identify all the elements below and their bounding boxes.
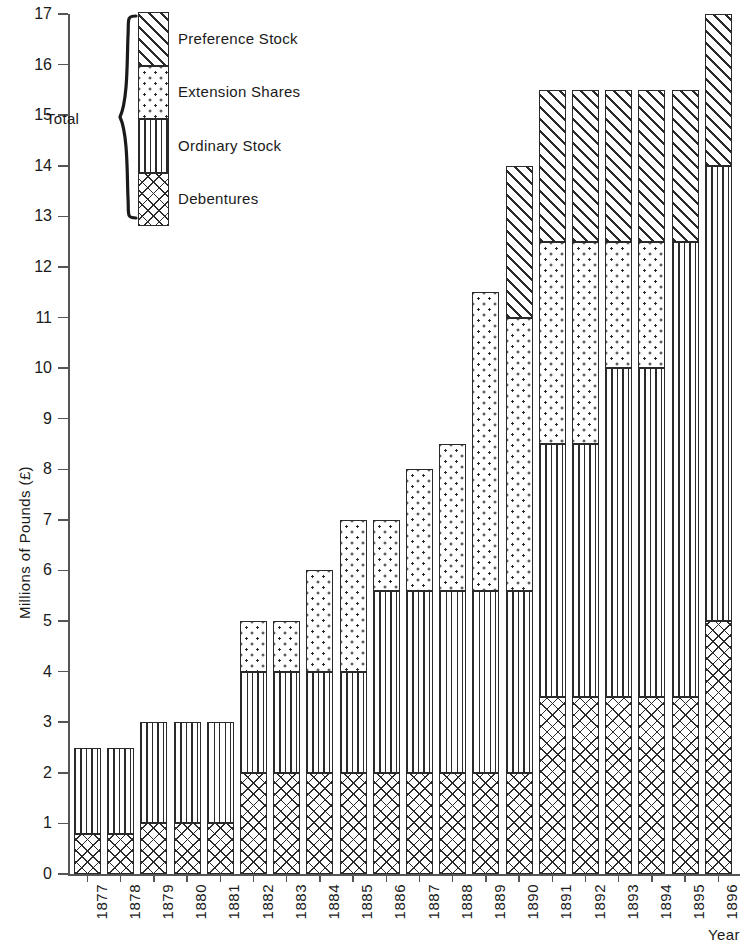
x-axis-tick-label: 1894 (658, 884, 673, 919)
y-axis-tick-label: 8 (16, 461, 52, 477)
x-axis-tick-label: 1877 (94, 884, 109, 919)
y-axis-line (68, 14, 70, 876)
y-axis-tick (58, 823, 68, 825)
x-axis-tick-label: 1878 (127, 884, 142, 919)
bar-segment-preference (572, 90, 599, 242)
x-axis-tick (120, 876, 122, 882)
x-axis-line (68, 874, 740, 876)
bar-segment-extension (439, 444, 466, 591)
x-axis-tick (618, 876, 620, 882)
x-axis-tick (153, 876, 155, 882)
bar-group (340, 0, 367, 874)
y-axis-tick-label: 3 (16, 714, 52, 730)
bar-segment-debentures (605, 697, 632, 874)
bar-segment-debentures (539, 697, 566, 874)
y-axis-tick (58, 469, 68, 471)
x-axis-tick (684, 876, 686, 882)
y-axis-tick-label: 5 (16, 613, 52, 629)
bar-segment-ordinary (506, 591, 533, 773)
y-axis-tick-label: 12 (16, 259, 52, 275)
bar-group (306, 0, 333, 874)
bar-segment-extension (240, 621, 267, 672)
bar-segment-extension (572, 242, 599, 444)
bar-segment-debentures (672, 697, 699, 874)
y-axis-tick-label: 11 (16, 310, 52, 326)
y-axis-tick-label: 7 (16, 512, 52, 528)
bar-segment-debentures (207, 823, 234, 874)
bar-segment-ordinary (539, 444, 566, 697)
bar-segment-debentures (572, 697, 599, 874)
y-axis-tick-label: 16 (16, 57, 52, 73)
bar-segment-ordinary (472, 591, 499, 773)
x-axis-tick-label: 1882 (260, 884, 275, 919)
bar-group (705, 0, 732, 874)
y-axis-tick (58, 216, 68, 218)
x-axis-tick-label: 1895 (691, 884, 706, 919)
legend-label: Ordinary Stock (178, 137, 281, 154)
bar-segment-debentures (472, 773, 499, 874)
y-axis-tick (58, 418, 68, 420)
x-axis-tick (253, 876, 255, 882)
bar-group (74, 0, 101, 874)
legend-label: Debentures (178, 190, 259, 207)
x-axis-tick-label: 1891 (558, 884, 573, 919)
y-axis-tick (58, 64, 68, 66)
bar-group (638, 0, 665, 874)
bar-segment-ordinary (373, 591, 400, 773)
y-axis-tick (58, 772, 68, 774)
bar-segment-ordinary (439, 591, 466, 773)
x-axis-tick-label: 1889 (492, 884, 507, 919)
legend-swatch-dots (138, 66, 169, 120)
bar-segment-extension (472, 292, 499, 590)
bar-segment-ordinary (273, 672, 300, 773)
bar-group (472, 0, 499, 874)
bar-segment-preference (539, 90, 566, 242)
y-axis-tick-label: 6 (16, 562, 52, 578)
x-axis-title: Year (708, 926, 740, 943)
y-axis-tick (58, 266, 68, 268)
y-axis-tick (58, 317, 68, 319)
bar-segment-ordinary (107, 748, 134, 834)
bar-segment-debentures (705, 621, 732, 874)
x-axis-tick (319, 876, 321, 882)
x-axis-tick-label: 1885 (359, 884, 374, 919)
y-axis-tick-label: 2 (16, 765, 52, 781)
bar-segment-ordinary (74, 748, 101, 834)
x-axis-tick-label: 1893 (625, 884, 640, 919)
y-axis-tick (58, 165, 68, 167)
x-axis-tick (651, 876, 653, 882)
legend-brace-icon (116, 14, 138, 224)
bar-segment-extension (306, 570, 333, 671)
bar-segment-ordinary (174, 722, 201, 823)
bar-segment-ordinary (340, 672, 367, 773)
x-axis-tick (552, 876, 554, 882)
bar-group (273, 0, 300, 874)
bar-segment-extension (605, 242, 632, 368)
bar-segment-extension (638, 242, 665, 368)
x-axis-tick-label: 1890 (525, 884, 540, 919)
bar-segment-debentures (340, 773, 367, 874)
legend-swatch-stack (138, 12, 169, 226)
bar-segment-debentures (406, 773, 433, 874)
bar-segment-debentures (373, 773, 400, 874)
x-axis-tick (419, 876, 421, 882)
bar-segment-debentures (240, 773, 267, 874)
x-axis-tick-label: 1888 (459, 884, 474, 919)
y-axis-tick (58, 671, 68, 673)
bar-segment-ordinary (672, 242, 699, 697)
y-axis-tick (58, 873, 68, 875)
x-axis-tick (386, 876, 388, 882)
x-axis-tick (452, 876, 454, 882)
bar-segment-ordinary (572, 444, 599, 697)
y-axis-tick (58, 13, 68, 15)
bar-segment-preference (638, 90, 665, 242)
bar-segment-preference (672, 90, 699, 242)
bar-segment-debentures (174, 823, 201, 874)
bar-segment-debentures (506, 773, 533, 874)
x-axis-tick (220, 876, 222, 882)
bar-segment-debentures (74, 834, 101, 874)
bar-group (406, 0, 433, 874)
bar-segment-ordinary (240, 672, 267, 773)
bar-group (174, 0, 201, 874)
bar-segment-extension (406, 469, 433, 590)
